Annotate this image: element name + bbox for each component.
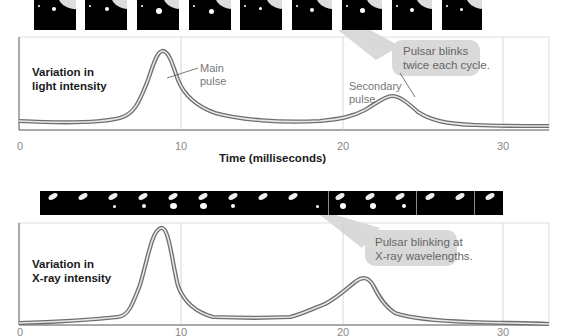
bottom-tick-0: 0 [17, 326, 23, 336]
secondary-pulse-leader [400, 73, 415, 97]
top-tick-30: 30 [497, 140, 509, 152]
secondary-pulse-line1: Secondary [349, 80, 402, 93]
top-tick-0: 0 [17, 140, 23, 152]
top-panel-label: Variation in light intensity [32, 65, 107, 93]
top-panel-label-line1: Variation in [32, 65, 107, 79]
main-pulse-leader [167, 68, 198, 78]
bottom-callout-line1: Pulsar blinking at [375, 235, 473, 249]
bottom-callout-line2: X-ray wavelengths. [375, 249, 473, 263]
bottom-callout-text: Pulsar blinking at X-ray wavelengths. [375, 235, 473, 263]
bottom-tick-20: 20 [337, 326, 349, 336]
top-tick-10: 10 [175, 140, 187, 152]
top-callout-wedge [338, 30, 400, 60]
secondary-pulse-line2: pulse [349, 93, 402, 106]
bottom-tick-10: 10 [175, 326, 187, 336]
main-pulse-line1: Main [200, 62, 226, 75]
bottom-tick-30: 30 [497, 326, 509, 336]
main-pulse-line2: pulse [200, 75, 226, 88]
bottom-panel-label-line1: Variation in [32, 257, 111, 271]
secondary-pulse-annotation: Secondary pulse [349, 80, 402, 106]
top-tick-20: 20 [337, 140, 349, 152]
top-callout-line1: Pulsar blinks [403, 44, 490, 58]
top-callout-line2: twice each cycle. [403, 58, 490, 72]
main-pulse-annotation: Main pulse [200, 62, 226, 88]
top-panel-label-line2: light intensity [32, 79, 107, 93]
bottom-panel-label-line2: X-ray intensity [32, 271, 111, 285]
top-callout-text: Pulsar blinks twice each cycle. [403, 44, 490, 72]
x-axis-title: Time (milliseconds) [219, 152, 326, 164]
bottom-panel-label: Variation in X-ray intensity [32, 257, 111, 285]
